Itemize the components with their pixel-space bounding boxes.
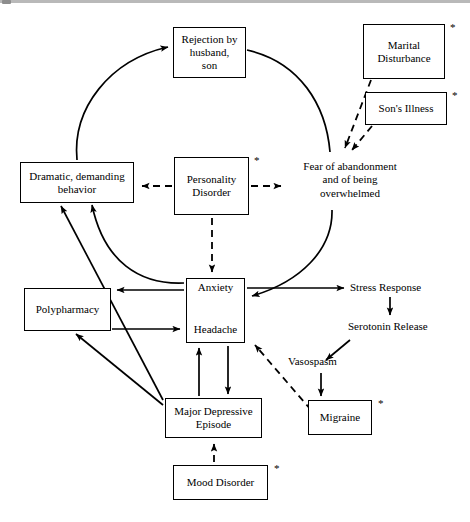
edge-sons-illness-to-fear xyxy=(352,126,372,150)
node-vasospasm: Vasospasm xyxy=(288,355,358,368)
asterisk-personality-disorder: * xyxy=(254,155,260,166)
node-major-depressive-episode[interactable]: Major Depressive Episode xyxy=(165,398,262,438)
node-headache: Headache xyxy=(184,323,247,336)
node-marital-disturbance[interactable]: Marital Disturbance xyxy=(363,24,445,79)
edge-fear-to-anxiety xyxy=(252,210,332,296)
node-personality-disorder[interactable]: Personality Disorder xyxy=(174,157,249,215)
node-anxiety: Anxiety xyxy=(186,281,245,294)
node-serotonin-release: Serotonin Release xyxy=(348,320,458,333)
asterisk-sons-illness: * xyxy=(452,90,458,101)
edge-anxiety-to-dramatic xyxy=(92,205,184,283)
node-mood-disorder[interactable]: Mood Disorder xyxy=(173,465,268,500)
node-stress-response: Stress Response xyxy=(350,281,450,294)
edge-dramatic-to-rejection xyxy=(77,47,168,160)
asterisk-migraine: * xyxy=(378,398,384,409)
edge-rejection-to-fear xyxy=(247,50,330,152)
node-polypharmacy[interactable]: Polypharmacy xyxy=(24,288,111,331)
asterisk-mood-disorder: * xyxy=(274,463,280,474)
node-dramatic-demanding-behavior[interactable]: Dramatic, demanding behavior xyxy=(20,162,134,203)
node-fear-of-abandonment: Fear of abandonment and of being overwhe… xyxy=(288,160,412,200)
edge-mde-to-polypharmacy xyxy=(76,334,163,405)
node-sons-illness[interactable]: Son's Illness xyxy=(365,92,447,125)
diagram-canvas: Rejection by husband, son Marital Distur… xyxy=(0,0,470,522)
node-rejection[interactable]: Rejection by husband, son xyxy=(173,27,246,78)
asterisk-marital-disturbance: * xyxy=(450,22,456,33)
node-migraine[interactable]: Migraine xyxy=(308,400,372,435)
